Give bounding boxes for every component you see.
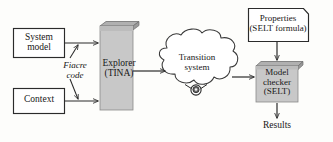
fiacre-leader-up	[70, 45, 78, 58]
cloud-marker-right-tick-icon	[201, 85, 207, 89]
transition-system-cloud	[159, 29, 237, 84]
context-box	[14, 89, 65, 114]
model-checker-front-highlight	[256, 66, 298, 70]
diagram-canvas: System model Context Fiacre code Explore…	[0, 0, 333, 142]
explorer-front-highlight	[100, 26, 133, 31]
diagram-graphics	[0, 0, 333, 142]
model-checker-top-face	[256, 62, 303, 67]
explorer-front-face	[100, 26, 133, 110]
model-checker-front-face	[256, 66, 298, 102]
cloud-marker-left-tick-icon	[185, 85, 192, 89]
cloud-marker-inner-icon	[195, 88, 198, 91]
explorer-top-face	[100, 22, 139, 27]
system-model-box	[14, 29, 65, 58]
properties-box	[249, 9, 309, 42]
fiacre-leader-down	[70, 79, 78, 99]
